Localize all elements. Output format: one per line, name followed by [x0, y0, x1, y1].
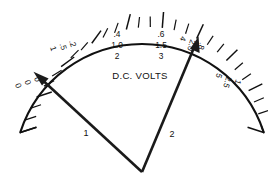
scale-label-s1-4: .4 — [114, 29, 121, 39]
tick-major-3 — [92, 31, 101, 44]
tick-minor-14 — [217, 44, 224, 52]
scale-arc-group — [20, 44, 264, 132]
tick-major-8 — [249, 84, 263, 91]
scale-labels-left-mid: .2 .5 1 — [48, 39, 78, 55]
scale-label-s1-10: 1 — [233, 78, 243, 86]
tick-minor-12 — [186, 24, 189, 34]
tick-minor-13 — [207, 36, 213, 45]
scale-label-s2-2: .5 — [58, 42, 69, 52]
scale-label-s3-8: 4 — [178, 35, 188, 43]
tick-major-5 — [162, 12, 163, 28]
scale-labels-right-end: 1 2.5 5 — [211, 72, 242, 92]
needle-2-group: 2 — [142, 37, 200, 173]
needle-2-shaft — [142, 46, 195, 172]
tick-minor-9 — [138, 17, 139, 28]
scale-arc — [20, 44, 264, 132]
tick-minor-17 — [254, 98, 264, 102]
scale-label-s3-4: 2 — [115, 51, 120, 61]
needle-1-label: 1 — [83, 128, 88, 138]
tick-minor-18 — [258, 110, 268, 113]
needle-1-shaft — [41, 78, 143, 172]
tick-minor-15 — [235, 63, 243, 70]
scale-labels-center-left: .4 1.0 2 — [111, 29, 123, 61]
tick-minor-5 — [71, 50, 79, 58]
meter-svg-canvas: 0 0 0 .2 .5 1 .4 1.0 2 .6 1.5 3 .8 2.0 4 — [0, 0, 268, 186]
tick-major-7 — [226, 50, 237, 61]
needle-1-group: 1 — [34, 72, 143, 172]
scale-label-s3-2: 1 — [48, 45, 58, 53]
tick-major-4 — [126, 14, 130, 29]
scale-labels-center-right: .6 1.5 3 — [155, 29, 167, 61]
scale-label-s3-0: 0 — [13, 82, 23, 90]
tick-minor-16 — [242, 74, 251, 80]
tick-minor-7 — [103, 28, 108, 37]
scale-label-s1-6: .6 — [158, 29, 165, 39]
tick-minor-6 — [81, 42, 88, 50]
scale-label-s3-6: 3 — [159, 51, 164, 61]
needle-2-label: 2 — [169, 129, 174, 139]
scale-label-s2-0: 0 — [23, 79, 33, 87]
meter-diagram: 0 0 0 .2 .5 1 .4 1.0 2 .6 1.5 3 .8 2.0 4 — [0, 0, 268, 186]
face-label-dc-volts: D.C. VOLTS — [112, 70, 168, 81]
scale-label-s2-6: 1.5 — [155, 40, 167, 50]
scale-label-s2-4: 1.0 — [111, 40, 123, 50]
tick-minor-11 — [174, 20, 176, 30]
tick-major-6 — [197, 24, 204, 38]
